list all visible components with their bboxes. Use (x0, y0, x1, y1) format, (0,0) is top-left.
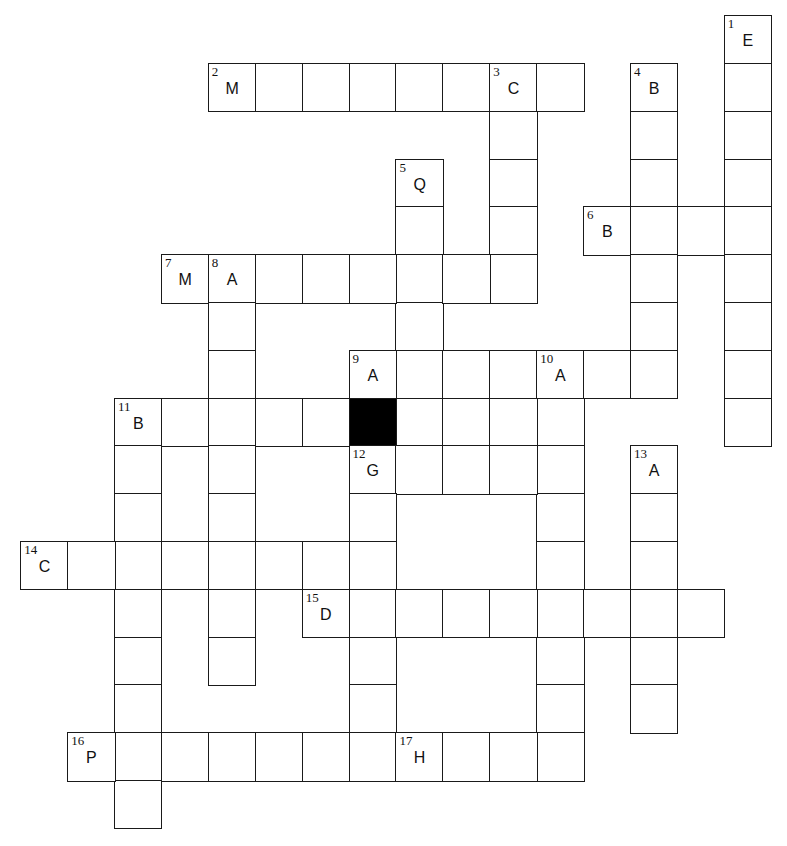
grid-cell[interactable] (255, 398, 303, 447)
grid-cell[interactable] (395, 302, 443, 351)
grid-cell[interactable] (677, 589, 725, 638)
grid-cell[interactable] (114, 637, 162, 686)
grid-cell[interactable] (395, 350, 443, 399)
grid-cell[interactable] (302, 63, 350, 112)
grid-cell[interactable] (442, 398, 490, 447)
grid-cell[interactable] (630, 589, 678, 638)
grid-cell[interactable] (536, 637, 584, 686)
grid-cell[interactable]: 10A (536, 350, 584, 399)
grid-cell[interactable] (536, 732, 584, 781)
grid-cell[interactable] (489, 589, 537, 638)
grid-cell[interactable] (724, 111, 772, 160)
grid-cell[interactable] (489, 350, 537, 399)
grid-cell[interactable] (349, 63, 397, 112)
grid-cell[interactable] (630, 350, 678, 399)
grid-cell[interactable] (630, 684, 678, 733)
grid-cell[interactable] (536, 63, 584, 112)
grid-cell[interactable] (67, 541, 115, 590)
grid-cell[interactable] (724, 398, 772, 447)
grid-cell[interactable] (395, 398, 443, 447)
grid-cell[interactable] (536, 684, 584, 733)
grid-cell[interactable]: 16P (67, 732, 115, 781)
grid-cell[interactable] (489, 732, 537, 781)
grid-cell[interactable] (630, 637, 678, 686)
grid-cell[interactable] (536, 445, 584, 494)
grid-cell[interactable] (114, 684, 162, 733)
grid-cell[interactable] (724, 350, 772, 399)
grid-cell[interactable] (302, 541, 350, 590)
grid-cell[interactable] (395, 445, 443, 494)
grid-cell[interactable] (255, 732, 303, 781)
grid-cell[interactable] (442, 445, 490, 494)
grid-cell[interactable]: 11B (114, 398, 162, 447)
grid-cell[interactable]: 13A (630, 445, 678, 494)
grid-cell[interactable] (630, 111, 678, 160)
grid-cell[interactable] (114, 445, 162, 494)
grid-cell[interactable] (724, 302, 772, 351)
grid-cell[interactable] (724, 63, 772, 112)
grid-cell[interactable]: 1E (724, 15, 772, 64)
grid-cell[interactable] (349, 684, 397, 733)
grid-cell[interactable]: 4B (630, 63, 678, 112)
grid-cell[interactable] (114, 541, 162, 590)
grid-cell[interactable] (255, 254, 303, 303)
grid-cell[interactable] (349, 493, 397, 542)
grid-cell[interactable] (630, 206, 678, 255)
grid-cell[interactable] (114, 493, 162, 542)
grid-cell[interactable]: 6B (583, 206, 631, 255)
grid-cell[interactable] (161, 398, 209, 447)
grid-cell[interactable] (208, 445, 256, 494)
grid-cell[interactable] (724, 206, 772, 255)
grid-cell[interactable] (349, 589, 397, 638)
grid-cell[interactable] (395, 63, 443, 112)
grid-cell[interactable]: 3C (489, 63, 537, 112)
grid-cell[interactable] (583, 350, 631, 399)
grid-cell[interactable]: 9A (349, 350, 397, 399)
grid-cell[interactable] (630, 159, 678, 208)
grid-cell[interactable] (208, 302, 256, 351)
grid-cell[interactable] (724, 159, 772, 208)
grid-cell[interactable] (630, 541, 678, 590)
grid-cell[interactable] (442, 350, 490, 399)
grid-cell[interactable] (349, 541, 397, 590)
grid-cell[interactable] (442, 732, 490, 781)
grid-cell[interactable]: 15D (302, 589, 350, 638)
grid-cell[interactable] (161, 732, 209, 781)
grid-cell[interactable] (442, 254, 490, 303)
grid-cell[interactable] (489, 111, 537, 160)
grid-cell[interactable] (349, 254, 397, 303)
grid-cell[interactable] (161, 541, 209, 590)
grid-cell[interactable] (302, 398, 350, 447)
grid-cell[interactable] (536, 541, 584, 590)
grid-cell[interactable] (630, 254, 678, 303)
grid-cell[interactable] (255, 541, 303, 590)
grid-cell[interactable] (349, 732, 397, 781)
grid-cell[interactable]: 12G (349, 445, 397, 494)
grid-cell[interactable] (208, 398, 256, 447)
grid-cell[interactable] (630, 493, 678, 542)
grid-cell[interactable] (208, 732, 256, 781)
grid-cell[interactable] (724, 254, 772, 303)
grid-cell[interactable] (536, 398, 584, 447)
grid-cell[interactable] (114, 780, 162, 829)
grid-cell[interactable] (395, 254, 443, 303)
grid-cell[interactable]: 2M (208, 63, 256, 112)
grid-cell[interactable] (208, 350, 256, 399)
grid-cell[interactable] (208, 493, 256, 542)
grid-cell[interactable] (349, 637, 397, 686)
grid-cell[interactable] (255, 63, 303, 112)
grid-cell[interactable] (677, 206, 725, 255)
grid-cell[interactable] (208, 637, 256, 686)
grid-cell[interactable] (630, 302, 678, 351)
grid-cell[interactable] (489, 159, 537, 208)
grid-cell[interactable] (489, 206, 537, 255)
grid-cell[interactable] (536, 493, 584, 542)
grid-cell[interactable]: 5Q (395, 159, 443, 208)
grid-cell[interactable]: 17H (395, 732, 443, 781)
grid-cell[interactable] (114, 732, 162, 781)
grid-cell[interactable]: 8A (208, 254, 256, 303)
grid-cell[interactable] (395, 206, 443, 255)
grid-cell[interactable] (583, 589, 631, 638)
grid-cell[interactable] (114, 589, 162, 638)
grid-cell[interactable] (302, 732, 350, 781)
